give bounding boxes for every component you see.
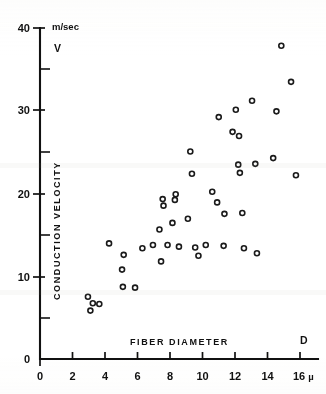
data-point — [107, 241, 112, 246]
x-tick-label-12: 12 — [229, 370, 241, 382]
data-point — [85, 294, 90, 299]
data-point — [133, 285, 138, 290]
y-unit-label: m/sec — [52, 21, 79, 32]
data-point — [90, 301, 95, 306]
plot-canvas: 40 30 20 10 0 m/sec V CONDUCTION VELOCIT… — [0, 0, 326, 394]
x-tick-label-0: 0 — [37, 370, 43, 382]
data-point — [241, 246, 246, 251]
data-point — [140, 246, 145, 251]
data-point — [240, 211, 245, 216]
data-point — [274, 109, 279, 114]
y-tick-label-40: 40 — [18, 22, 30, 34]
y-tick-label-20: 20 — [18, 188, 30, 200]
data-point — [271, 156, 276, 161]
data-points-layer — [85, 43, 298, 313]
data-point — [172, 197, 177, 202]
y-tick-label-30: 30 — [18, 104, 30, 116]
data-point — [230, 129, 235, 134]
data-point — [165, 243, 170, 248]
data-point — [159, 259, 164, 264]
data-point — [196, 253, 201, 258]
y-tick-label-10: 10 — [18, 271, 30, 283]
x-axis-title: FIBER DIAMETER — [130, 337, 229, 347]
data-point — [173, 192, 178, 197]
data-point — [216, 115, 221, 120]
data-point — [120, 267, 125, 272]
data-point — [170, 220, 175, 225]
y-axis-title: CONDUCTION VELOCITY — [52, 161, 62, 300]
data-point — [121, 252, 126, 257]
data-point — [185, 216, 190, 221]
data-point — [254, 251, 259, 256]
x-tick-label-8: 8 — [167, 370, 173, 382]
data-point — [237, 170, 242, 175]
data-point — [253, 161, 258, 166]
data-point — [237, 133, 242, 138]
data-point — [188, 149, 193, 154]
x-unit-label: µ — [308, 371, 313, 382]
x-tick-label-16: 16 — [293, 370, 305, 382]
x-tick-label-14: 14 — [261, 370, 274, 382]
data-point — [176, 244, 181, 249]
data-point — [97, 302, 102, 307]
data-point — [236, 162, 241, 167]
data-point — [279, 43, 284, 48]
data-point — [193, 245, 198, 250]
data-point — [289, 79, 294, 84]
data-point — [189, 171, 194, 176]
data-point — [120, 284, 125, 289]
x-tick-label-10: 10 — [196, 370, 208, 382]
data-point — [293, 173, 298, 178]
x-axis-symbol: D — [300, 334, 308, 346]
axis-spines — [40, 28, 318, 359]
data-point — [215, 200, 220, 205]
data-point — [250, 98, 255, 103]
data-point — [150, 243, 155, 248]
data-point — [222, 211, 227, 216]
data-point — [160, 197, 165, 202]
data-point — [221, 243, 226, 248]
data-point — [88, 308, 93, 313]
data-point — [157, 227, 162, 232]
data-point — [210, 189, 215, 194]
data-point — [233, 107, 238, 112]
y-tick-label-0: 0 — [24, 353, 30, 365]
x-tick-label-6: 6 — [134, 370, 140, 382]
data-point — [203, 243, 208, 248]
y-axis-symbol: V — [54, 42, 61, 54]
scatter-plot-figure: 40 30 20 10 0 m/sec V CONDUCTION VELOCIT… — [0, 0, 326, 394]
x-tick-label-2: 2 — [69, 370, 75, 382]
data-point — [161, 203, 166, 208]
x-tick-label-4: 4 — [102, 370, 109, 382]
